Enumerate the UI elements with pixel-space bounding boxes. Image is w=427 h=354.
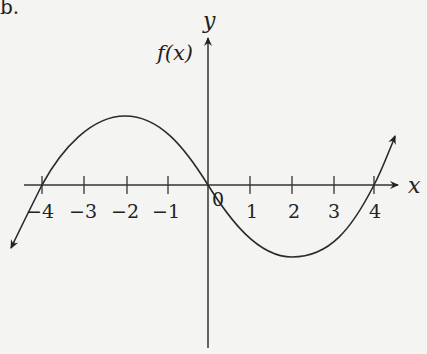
tick-label: 4 [369, 200, 381, 222]
x-axis-label: x [408, 173, 421, 198]
function-label: f(x) [155, 41, 193, 65]
tick-label: 1 [246, 200, 258, 222]
tick-label: −3 [69, 200, 97, 222]
curve-arrow-left [11, 242, 14, 248]
origin-label: 0 [212, 188, 224, 210]
y-axis-label: y [202, 8, 216, 33]
curve-f [12, 116, 395, 257]
tick-label: −2 [111, 200, 139, 222]
function-graph: b. y f(x) x 0 −4 −3 −2 −1 1 2 3 4 [0, 0, 427, 354]
problem-label: b. [0, 0, 19, 19]
tick-label: 3 [328, 200, 340, 222]
x-tick-labels: −4 −3 −2 −1 1 2 3 4 [26, 200, 381, 222]
curve-arrow-right [393, 136, 395, 141]
tick-label: −4 [26, 200, 54, 222]
tick-label: −1 [152, 200, 180, 222]
tick-label: 2 [288, 200, 300, 222]
